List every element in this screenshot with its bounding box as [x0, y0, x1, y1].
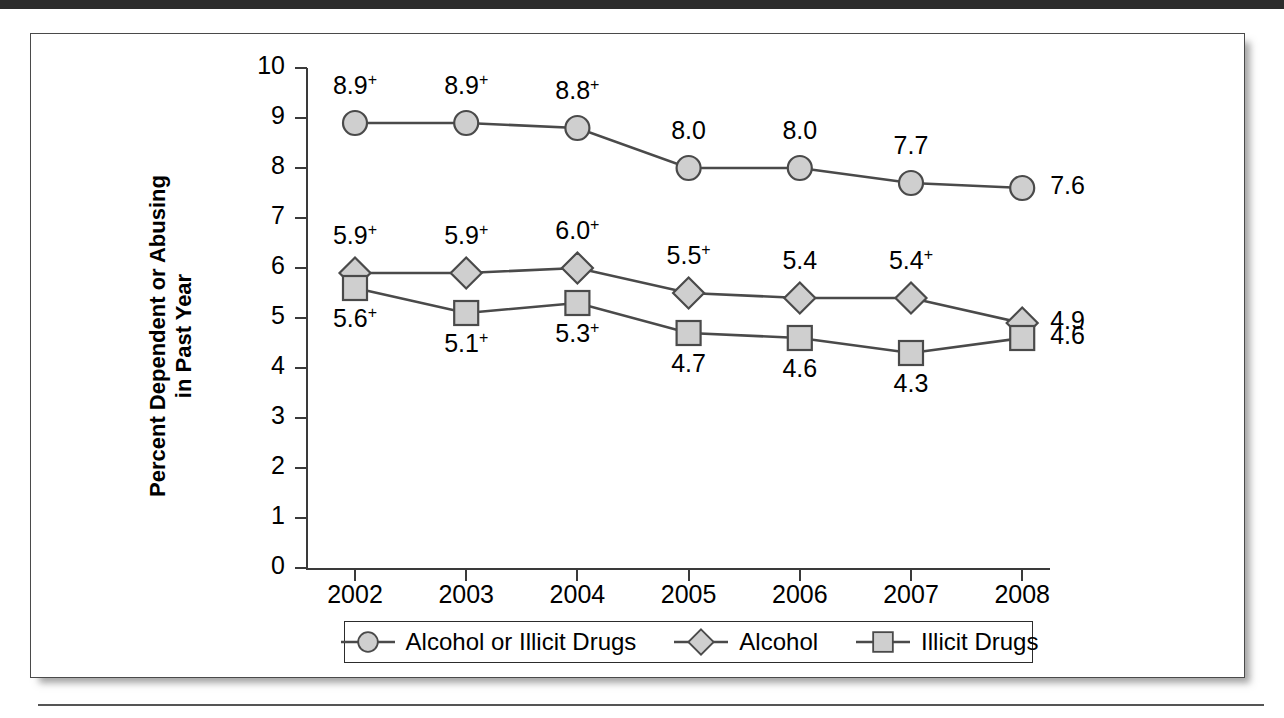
square-legend-icon — [854, 627, 912, 657]
legend-label: Alcohol — [739, 628, 818, 656]
legend-label: Illicit Drugs — [921, 628, 1038, 656]
circle-legend-icon — [339, 627, 397, 657]
page-top-rule — [0, 0, 1284, 9]
diamond-marker — [689, 629, 714, 654]
chart-legend: Alcohol or Illicit DrugsAlcoholIllicit D… — [344, 621, 1033, 663]
square-marker — [873, 632, 893, 652]
legend-entry: Alcohol — [672, 627, 818, 657]
legend-entry: Illicit Drugs — [854, 627, 1038, 657]
page-bottom-rule — [38, 704, 1264, 706]
circle-marker — [358, 632, 378, 652]
figure-frame — [30, 33, 1245, 678]
diamond-legend-icon — [672, 627, 730, 657]
legend-label: Alcohol or Illicit Drugs — [406, 628, 637, 656]
legend-entry: Alcohol or Illicit Drugs — [339, 627, 637, 657]
